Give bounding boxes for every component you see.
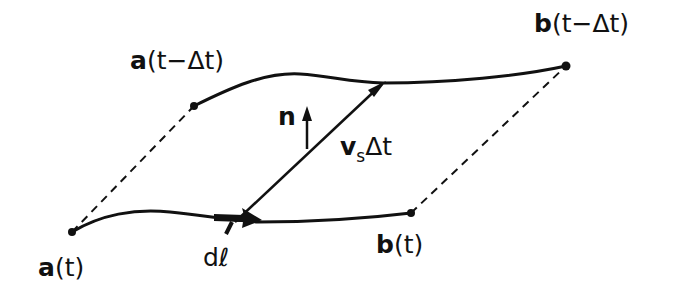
label-b-prev-arg: (t−Δt) bbox=[552, 9, 629, 38]
label-b-prev-symbol: b bbox=[534, 9, 552, 38]
label-normal: n bbox=[278, 104, 296, 129]
point-b-prev bbox=[562, 62, 571, 71]
label-b-t-symbol: b bbox=[376, 230, 394, 259]
label-a-t-symbol: a bbox=[38, 253, 55, 282]
label-a-prev-arg: (t−Δt) bbox=[147, 46, 224, 75]
label-b-t: b(t) bbox=[376, 232, 423, 257]
label-a-t-arg: (t) bbox=[55, 253, 84, 282]
label-velocity: vsΔt bbox=[340, 134, 392, 159]
point-a-prev bbox=[190, 102, 198, 110]
label-velocity-dt: Δt bbox=[365, 132, 392, 161]
label-line-element-text: dℓ bbox=[203, 243, 229, 272]
line-element-arrow-icon bbox=[214, 208, 262, 228]
diagram-canvas: a(t−Δt) b(t−Δt) a(t) b(t) n vsΔt dℓ bbox=[0, 0, 679, 287]
label-a-t: a(t) bbox=[38, 255, 84, 280]
label-b-prev: b(t−Δt) bbox=[534, 11, 629, 36]
point-b-t bbox=[407, 209, 415, 217]
label-line-element: dℓ bbox=[203, 245, 229, 270]
line-element-tail bbox=[226, 222, 232, 234]
label-velocity-sub: s bbox=[356, 146, 365, 166]
label-b-t-arg: (t) bbox=[394, 230, 423, 259]
label-a-prev: a(t−Δt) bbox=[130, 48, 224, 73]
point-a-t bbox=[68, 228, 76, 236]
label-normal-text: n bbox=[278, 102, 296, 131]
dashed-edge-b bbox=[411, 66, 566, 213]
label-velocity-v: v bbox=[340, 132, 356, 161]
normal-arrowhead-icon bbox=[302, 106, 312, 121]
label-a-prev-symbol: a bbox=[130, 46, 147, 75]
